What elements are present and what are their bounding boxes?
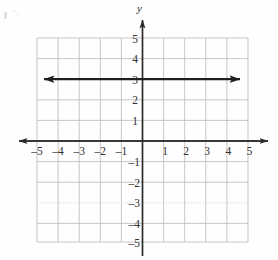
x-tick-label: 1 [162, 145, 168, 157]
y-axis-label: y [136, 2, 142, 14]
x-tick-label: –4 [51, 145, 64, 157]
y-tick-label: 5 [132, 33, 138, 45]
x-tick-label: 5 [247, 145, 253, 157]
x-tick-label: –1 [115, 145, 128, 157]
x-tick-label: 3 [204, 145, 210, 157]
y-tick-label: 4 [132, 53, 138, 65]
y-tick-label: –5 [128, 237, 141, 249]
coordinate-plane-figure: y –5 –4 –3 –2 –1 1 2 3 4 5 5 4 3 2 1 –1 … [0, 0, 278, 260]
y-tick-label: –1 [128, 156, 141, 168]
y-tick-label: –3 [128, 197, 141, 209]
y-tick-label: 1 [132, 115, 138, 127]
y-tick-label: –2 [128, 177, 141, 189]
y-tick-label: 3 [132, 74, 138, 86]
x-tick-label: 2 [183, 145, 189, 157]
plot-canvas: y –5 –4 –3 –2 –1 1 2 3 4 5 5 4 3 2 1 –1 … [0, 0, 278, 260]
x-tick-label: 4 [225, 145, 231, 157]
x-tick-label: –3 [72, 145, 85, 157]
x-tick-label: –2 [94, 145, 107, 157]
y-tick-label: 2 [132, 94, 138, 106]
scan-speck [4, 10, 19, 19]
x-tick-labels: –5 –4 –3 –2 –1 1 2 3 4 5 [30, 145, 252, 157]
x-tick-label: –5 [30, 145, 43, 157]
y-tick-label: –4 [128, 218, 141, 230]
